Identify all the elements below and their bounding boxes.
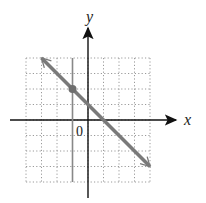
origin-label: 0 [76,124,83,139]
plot-area [10,28,176,198]
x-axis-label: x [183,111,191,128]
y-axis-label: y [84,8,94,26]
coordinate-plane: y x 0 [0,0,206,203]
data-point [69,85,77,93]
line [42,58,151,167]
